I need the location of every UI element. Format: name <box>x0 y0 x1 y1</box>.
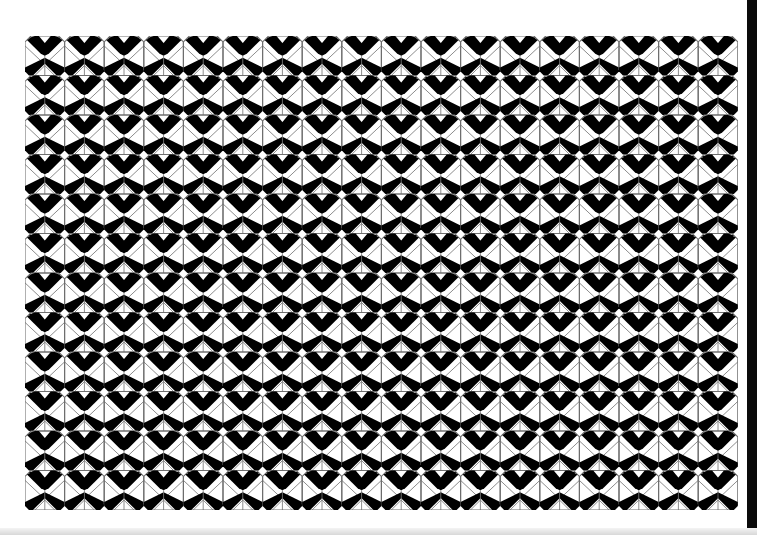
pattern-tile <box>659 76 699 116</box>
pattern-tile <box>342 115 382 155</box>
pattern-tile <box>144 115 184 155</box>
pattern-tile <box>579 471 619 511</box>
pattern-tile <box>540 115 580 155</box>
pattern-tile <box>619 234 659 274</box>
pattern-tile <box>421 194 461 234</box>
pattern-tile <box>342 36 382 76</box>
pattern-tile <box>619 471 659 511</box>
pattern-tile <box>421 155 461 195</box>
pattern-tile <box>540 352 580 392</box>
pattern-tile <box>421 273 461 313</box>
pattern-tile <box>104 431 144 471</box>
pattern-tile <box>223 36 263 76</box>
pattern-tile <box>500 471 540 511</box>
pattern-tile <box>619 76 659 116</box>
pattern-tile <box>65 194 105 234</box>
pattern-tile <box>619 313 659 353</box>
pattern-tile <box>381 352 421 392</box>
pattern-tile <box>183 155 223 195</box>
pattern-tile <box>461 36 501 76</box>
pattern-tile <box>342 431 382 471</box>
pattern-tile <box>500 36 540 76</box>
pattern-tile <box>381 234 421 274</box>
pattern-tile <box>540 313 580 353</box>
pattern-tile <box>698 352 738 392</box>
pattern-tile <box>25 471 65 511</box>
pattern-tile <box>144 155 184 195</box>
pattern-tile <box>421 115 461 155</box>
pattern-tile <box>104 115 144 155</box>
pattern-tile <box>381 313 421 353</box>
pattern-tile <box>183 273 223 313</box>
pattern-tile <box>65 392 105 432</box>
pattern-tile <box>579 352 619 392</box>
pattern-tile <box>579 431 619 471</box>
pattern-tile <box>698 234 738 274</box>
pattern-tile <box>461 392 501 432</box>
pattern-tile <box>421 36 461 76</box>
pattern-tile <box>342 352 382 392</box>
pattern-tile <box>619 115 659 155</box>
pattern-tile <box>659 234 699 274</box>
pattern-tile <box>421 431 461 471</box>
pattern-tile <box>461 115 501 155</box>
pattern-tile <box>223 313 263 353</box>
pattern-tile <box>698 392 738 432</box>
pattern-tile <box>579 115 619 155</box>
pattern-tile <box>659 431 699 471</box>
pattern-tile <box>223 76 263 116</box>
pattern-tile <box>698 155 738 195</box>
pattern-tile <box>342 471 382 511</box>
pattern-tile <box>500 155 540 195</box>
pattern-tile <box>65 352 105 392</box>
pattern-tile <box>302 36 342 76</box>
pattern-tile <box>421 76 461 116</box>
pattern-tile <box>342 273 382 313</box>
pattern-tile <box>540 234 580 274</box>
pattern-tile <box>25 352 65 392</box>
pattern-tile <box>619 36 659 76</box>
bottom-shadow <box>0 528 757 535</box>
pattern-tile <box>500 431 540 471</box>
pattern-tile <box>263 155 303 195</box>
pattern-tile <box>619 392 659 432</box>
pattern-tile <box>223 471 263 511</box>
pattern-tile <box>659 155 699 195</box>
pattern-tile <box>104 76 144 116</box>
pattern-tile <box>381 392 421 432</box>
pattern-tile <box>65 471 105 511</box>
pattern-tile <box>698 431 738 471</box>
pattern-tile <box>500 273 540 313</box>
pattern-tile <box>421 352 461 392</box>
geometric-tile-pattern <box>25 36 738 510</box>
pattern-tile <box>381 194 421 234</box>
pattern-tile <box>183 471 223 511</box>
pattern-tile <box>223 352 263 392</box>
pattern-tile <box>461 194 501 234</box>
pattern-tile <box>263 273 303 313</box>
pattern-tile <box>579 313 619 353</box>
pattern-tile <box>263 36 303 76</box>
pattern-tile <box>698 273 738 313</box>
pattern-tile <box>619 352 659 392</box>
pattern-tile <box>183 115 223 155</box>
pattern-tile <box>698 194 738 234</box>
pattern-tile <box>302 471 342 511</box>
pattern-tile <box>579 76 619 116</box>
pattern-tile <box>183 392 223 432</box>
pattern-tile <box>302 313 342 353</box>
pattern-tile <box>461 313 501 353</box>
pattern-tile <box>500 76 540 116</box>
pattern-tile <box>183 352 223 392</box>
pattern-tile <box>25 76 65 116</box>
pattern-tile <box>540 194 580 234</box>
pattern-tile <box>342 155 382 195</box>
pattern-tile <box>579 36 619 76</box>
pattern-tile <box>25 431 65 471</box>
pattern-tile <box>263 471 303 511</box>
pattern-tile <box>104 36 144 76</box>
pattern-tile <box>421 471 461 511</box>
pattern-tile <box>263 234 303 274</box>
pattern-tile <box>144 273 184 313</box>
pattern-tile <box>461 155 501 195</box>
